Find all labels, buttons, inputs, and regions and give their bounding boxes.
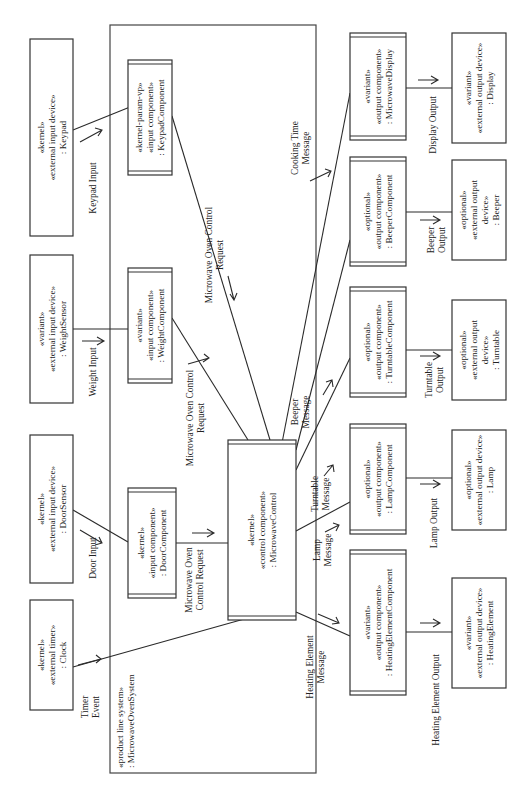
box-text-line: «output component» [373,173,383,249]
timer-event-label: TimerEvent [80,695,101,718]
cooking-time-arrow [310,169,331,181]
message-text: Door Input [88,537,98,579]
lamp-component-box: «optional»«output component»: LampCompon… [350,424,406,534]
lamp-box: «optional»«external output device»: Lamp [452,430,506,530]
box-text-line: : TurntableComponent [384,300,394,383]
weight-input-label: Weight Input [88,347,98,396]
message-text: Microwave Oven [184,547,194,613]
heating-msg-label: Heating ElementMessage [305,635,326,699]
keypad-box: «kernel»«external input device»: Keypad [30,39,73,236]
message-text: Request [196,403,206,434]
beeper-msg-label: BeeperMessage [290,396,311,429]
box-text-line: «variant» [362,69,372,104]
box-text-line: : MicrowaveControl [268,492,278,567]
box-text-line: «output component» [373,48,383,124]
message-text: Message [301,396,311,429]
weight-input-arrow [82,337,104,345]
box-text-line: «kernel» [246,514,256,547]
message-text: Message [316,651,326,684]
box-text-line: «external input device» [47,94,57,181]
message-text: Microwave Oven Control [185,369,195,466]
box-text-line: : Display [485,71,495,105]
heating-message-arrow [318,614,339,624]
box-text-line: «variant» [463,615,473,650]
box-text-line: : KeypadComponent [156,79,166,156]
box-text-line: «variant» [36,311,46,346]
message-text: Microwave Oven Control [204,206,214,303]
box-text-line: «kernel» [36,493,46,526]
door-request-label: Microwave OvenControl Request [184,547,205,613]
keypad-component-box: «kernel-param-vp»«input component»: Keyp… [128,60,172,175]
box-text-line: «external input device» [47,465,57,552]
message-text: Keypad Input [88,162,98,214]
box-text-line: «output component» [373,584,383,660]
box-text-line: «external output device» [474,434,484,525]
box-text-line: «external input device» [47,285,57,372]
microwave-control-box: «kernel»«control component»: MicrowaveCo… [228,440,296,620]
turntable-box: «optional»«external outputdevice»: Turnt… [452,300,506,400]
box-text-line: «output component» [373,441,383,517]
message-text: Heating Element [305,635,315,699]
heating-element-component-box: «variant»«output component»: HeatingElem… [350,550,406,695]
box-text-line: «input component» [145,290,155,362]
box-text-line: : WeightSensor [58,301,68,357]
timer-event-arrow [78,655,101,665]
display-output-label: Display Output [428,96,438,154]
message-text: Request [215,240,225,271]
message-text: Control Request [195,549,205,611]
box-text-line: «optional» [458,330,468,370]
box-text-line: : Turntable [491,330,501,370]
door-sensor-to-door-component [73,510,128,542]
box-text-line: «variant» [362,605,372,640]
message-text: Message [323,534,333,567]
box-text-line: «input component» [145,82,155,154]
box-text-line: «kernel» [36,639,46,672]
weight-sensor-box: «variant»«external input device»: Weight… [30,255,73,403]
door-request-arrow [192,529,214,537]
message-text: Output [437,227,447,253]
box-text-line: : DoorSensor [58,485,68,534]
message-text: Lamp [312,539,322,561]
heating-output-label: Heating Element Output [431,654,441,746]
message-text: Cooking Time [290,121,300,175]
keypad-request-label: Microwave Oven ControlRequest [204,206,225,303]
box-text-line: : HeatingElementComponent [384,568,394,676]
box-text-line: : LampComponent [384,444,394,514]
box-text-line: device» [480,335,490,364]
box-text-line: device» [480,195,490,224]
box-text-line: «external output device» [474,42,484,133]
box-text-line: : Clock [58,641,68,668]
heating-element-box: «variant»«external output device»: Heati… [452,578,506,688]
keypad-input-label: Keypad Input [88,162,98,214]
beeper-message-arrow [323,380,333,395]
turntable-output-label: TurntableOutput [424,362,445,398]
box-text-line: «input component» [147,507,157,579]
lamp-output-label: Lamp Output [429,497,439,548]
microwave-oven-system-diagram: «product line system» : MicrowaveOvenSys… [0,0,514,810]
message-text: Turntable [424,362,434,398]
box-text-line: «external timer» [47,624,57,685]
system-name: : MicrowaveOvenSystem [126,674,136,768]
box-text-line: «variant» [463,70,473,105]
beeper-box: «optional»«external outputdevice»: Beepe… [452,160,506,260]
keypad-request-arrow [228,276,237,300]
box-text-line: «external output device» [474,587,484,678]
clock-box: «kernel»«external timer»: Clock [30,600,73,710]
message-text: Weight Input [88,347,98,396]
message-text: Message [321,478,331,511]
box-text-line: «output component» [373,304,383,380]
box-text-line: «variant» [134,308,144,343]
lamp-output-arrow [420,480,440,488]
message-text: Event [91,696,101,718]
box-text-line: «control component» [257,490,267,569]
box-text-line: : MicrowaveDisplay [384,48,394,124]
box-text-line: «external output [469,180,479,240]
box-text-line: : DoorComponent [158,509,168,576]
box-text-line: «optional» [362,191,372,231]
box-text-line: : Beeper [491,195,501,226]
box-text-line: : HeatingElement [485,600,495,665]
door-input-label: Door Input [88,537,98,579]
beeper-output-label: BeeperOutput [426,226,447,253]
box-text-line: «optional» [362,322,372,362]
message-text: Lamp Output [429,497,439,548]
